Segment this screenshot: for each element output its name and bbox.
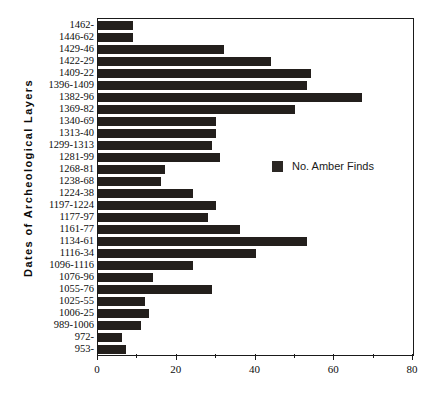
y-axis-tick-label: 1369-82 — [20, 104, 94, 115]
x-axis-tick — [294, 354, 295, 358]
x-axis-tick-label: 20 — [156, 363, 196, 375]
x-axis-tick — [215, 354, 216, 358]
bar — [98, 321, 141, 330]
y-axis-tick-label: 1382-96 — [20, 92, 94, 103]
bar-chart: Dates of Archeological Layers 1462-1446-… — [0, 0, 437, 395]
x-axis-tick — [97, 354, 98, 360]
y-axis-tick-label: 1396-1409 — [20, 80, 94, 91]
y-axis-tick-label: 1076-96 — [20, 272, 94, 283]
bar — [98, 141, 212, 150]
y-axis-tick-label: 1006-25 — [20, 308, 94, 319]
x-axis-tick-label: 40 — [235, 363, 275, 375]
y-axis-tick-label: 1134-61 — [20, 236, 94, 247]
x-axis-tick — [176, 354, 177, 360]
bar — [98, 189, 193, 198]
y-axis-tick-label: 1096-1116 — [20, 260, 94, 271]
bar — [98, 21, 133, 30]
x-axis: 020406080 — [97, 354, 412, 384]
x-axis-tick — [136, 354, 137, 358]
bar — [98, 273, 153, 282]
plot-area — [97, 18, 414, 356]
y-axis-tick-label: 1446-62 — [20, 32, 94, 43]
y-axis-tick-label: 1268-81 — [20, 164, 94, 175]
bar — [98, 285, 212, 294]
bar — [98, 261, 193, 270]
legend: No. Amber Finds — [272, 160, 374, 172]
bar — [98, 117, 216, 126]
y-axis-tick-label: 1177-97 — [20, 212, 94, 223]
x-axis-tick-label: 80 — [392, 363, 432, 375]
y-axis-tick-label: 1238-68 — [20, 176, 94, 187]
y-axis-tick-label: 972- — [20, 332, 94, 343]
bar — [98, 45, 224, 54]
y-axis-tick-labels: 1462-1446-621429-461422-291409-221396-14… — [20, 18, 94, 354]
bar — [98, 153, 220, 162]
y-axis-tick-label: 1340-69 — [20, 116, 94, 127]
bar — [98, 249, 256, 258]
legend-label-amber-finds: No. Amber Finds — [292, 160, 374, 172]
y-axis-tick-label: 1462- — [20, 20, 94, 31]
x-axis-tick-label: 60 — [313, 363, 353, 375]
x-axis-tick — [373, 354, 374, 358]
bar — [98, 345, 126, 354]
bar — [98, 309, 149, 318]
y-axis-tick-label: 1409-22 — [20, 68, 94, 79]
bar — [98, 237, 307, 246]
y-axis-tick-label: 1281-99 — [20, 152, 94, 163]
x-axis-tick-label: 0 — [77, 363, 117, 375]
legend-swatch-amber-finds — [272, 161, 283, 172]
y-axis-tick-label: 1429-46 — [20, 44, 94, 55]
bar — [98, 165, 165, 174]
y-axis-tick-label: 1055-76 — [20, 284, 94, 295]
bar — [98, 225, 240, 234]
y-axis-tick-label: 989-1006 — [20, 320, 94, 331]
bar — [98, 333, 122, 342]
bar — [98, 297, 145, 306]
y-axis-tick-label: 1422-29 — [20, 56, 94, 67]
y-axis-tick-label: 1313-40 — [20, 128, 94, 139]
bar — [98, 201, 216, 210]
bar — [98, 105, 295, 114]
y-axis-tick-label: 1025-55 — [20, 296, 94, 307]
y-axis-tick-label: 1197-1224 — [20, 200, 94, 211]
bar — [98, 81, 307, 90]
x-axis-tick — [255, 354, 256, 360]
x-axis-tick — [333, 354, 334, 360]
bar — [98, 213, 208, 222]
bar — [98, 93, 362, 102]
x-axis-tick — [412, 354, 413, 360]
y-axis-tick-label: 1299-1313 — [20, 140, 94, 151]
bar — [98, 177, 161, 186]
y-axis-tick-label: 1224-38 — [20, 188, 94, 199]
bar — [98, 129, 216, 138]
bar — [98, 69, 311, 78]
y-axis-tick-label: 1161-77 — [20, 224, 94, 235]
y-axis-tick-label: 953- — [20, 344, 94, 355]
bar — [98, 33, 133, 42]
bar — [98, 57, 271, 66]
y-axis-tick-label: 1116-34 — [20, 248, 94, 259]
